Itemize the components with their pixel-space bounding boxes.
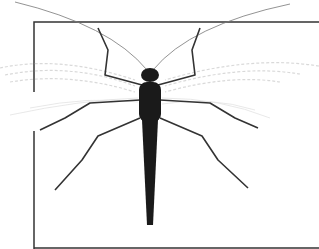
antennae xyxy=(15,2,290,70)
insect-illustration xyxy=(0,0,319,249)
insect-body xyxy=(139,68,161,225)
frame xyxy=(34,22,319,249)
